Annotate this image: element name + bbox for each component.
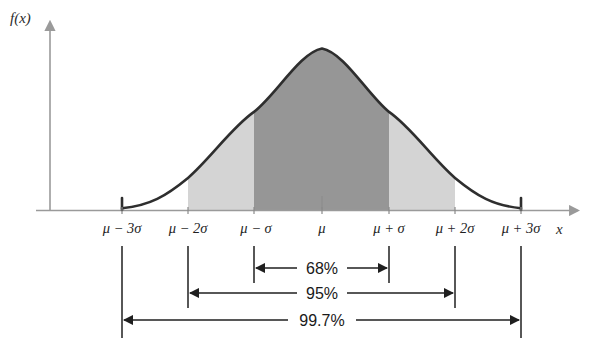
tick-label-mu: μ: [317, 220, 325, 236]
tick-group-6: μ + 3σ: [501, 207, 542, 236]
tick-group-1: μ − 2σ: [168, 207, 209, 236]
tick-label-mu-plus-sigma: μ + σ: [372, 220, 405, 236]
interval-68-label: 68%: [306, 260, 338, 277]
tick-label-mu-minus-3sigma: μ − 3σ: [102, 220, 143, 236]
interval-95-label: 95%: [306, 285, 338, 302]
interval-997: 99.7%: [124, 310, 519, 330]
inner-band-shape: [122, 49, 521, 211]
tick-group-2: μ − σ: [239, 207, 272, 236]
x-axis-label: x: [555, 221, 563, 237]
interval-68: 68%: [256, 258, 387, 278]
y-axis-label: f(x): [10, 10, 31, 27]
shaded-areas: [122, 49, 521, 211]
tick-label-mu-plus-3sigma: μ + 3σ: [501, 220, 542, 236]
tick-label-mu-minus-2sigma: μ − 2σ: [168, 220, 209, 236]
x-axis-ticks: μ − 3σ μ − 2σ μ − σ μ μ + σ μ + 2σ μ + 3…: [102, 207, 542, 236]
tick-group-4: μ + σ: [372, 207, 405, 236]
tick-label-mu-plus-2sigma: μ + 2σ: [435, 220, 476, 236]
interval-95: 95%: [190, 283, 453, 303]
normal-distribution-figure: f(x) x μ − 3σ μ − 2σ μ − σ μ μ + σ: [0, 0, 589, 343]
interval-997-label: 99.7%: [299, 312, 344, 329]
tick-group-5: μ + 2σ: [435, 207, 476, 236]
tick-group-3: μ: [317, 207, 325, 236]
tick-label-mu-minus-sigma: μ − σ: [239, 220, 272, 236]
tick-group-0: μ − 3σ: [102, 207, 143, 236]
